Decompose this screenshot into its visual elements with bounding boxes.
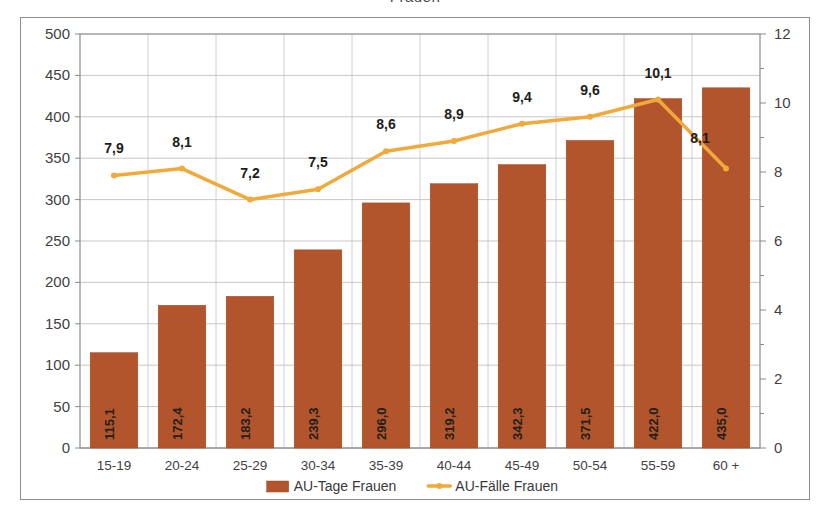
bar-value-label: 239,3 xyxy=(306,407,321,440)
bar-value-label: 435,0 xyxy=(714,407,729,440)
line-marker xyxy=(655,97,661,103)
axis-label-right: 0 xyxy=(774,439,782,456)
category-label: 35-39 xyxy=(369,458,404,473)
bar-value-label: 422,0 xyxy=(646,407,661,440)
line-marker xyxy=(383,148,389,154)
bar-value-label: 342,3 xyxy=(510,407,525,440)
legend-swatch-bar xyxy=(267,481,289,492)
line-marker xyxy=(451,138,457,144)
line-value-label: 7,2 xyxy=(240,165,260,181)
axis-label-right: 4 xyxy=(774,301,782,318)
axis-label-left: 150 xyxy=(45,315,70,332)
line-value-label: 9,6 xyxy=(580,82,600,98)
legend-label: AU-Tage Frauen xyxy=(294,478,397,494)
category-label: 15-19 xyxy=(97,458,132,473)
line-marker xyxy=(111,172,117,178)
legend-label: AU-Fälle Frauen xyxy=(455,478,558,494)
line-marker xyxy=(179,166,185,172)
category-label: 50-54 xyxy=(573,458,608,473)
category-label: 45-49 xyxy=(505,458,540,473)
bar-value-label: 183,2 xyxy=(238,407,253,440)
axis-label-left: 250 xyxy=(45,232,70,249)
axis-label-right: 8 xyxy=(774,163,782,180)
category-label: 20-24 xyxy=(165,458,200,473)
axis-label-right: 12 xyxy=(774,25,791,42)
line-value-label: 7,5 xyxy=(308,154,328,170)
chart-svg: 0501001502002503003504004505000246810121… xyxy=(0,0,830,516)
category-label: 25-29 xyxy=(233,458,268,473)
line-value-label: 7,9 xyxy=(104,140,124,156)
chart-container: Frauen 050100150200250300350400450500024… xyxy=(0,0,830,516)
bar-value-label: 172,4 xyxy=(170,407,185,440)
line-marker xyxy=(587,114,593,120)
category-label: 30-34 xyxy=(301,458,336,473)
bar-value-label: 371,5 xyxy=(578,407,593,440)
line-value-label: 8,1 xyxy=(690,130,710,146)
category-label: 40-44 xyxy=(437,458,472,473)
line-marker xyxy=(519,121,525,127)
axis-label-left: 100 xyxy=(45,356,70,373)
axis-label-left: 300 xyxy=(45,191,70,208)
bar xyxy=(634,99,682,448)
axis-label-left: 200 xyxy=(45,273,70,290)
line-marker xyxy=(315,186,321,192)
line-value-label: 8,6 xyxy=(376,116,396,132)
axis-label-right: 6 xyxy=(774,232,782,249)
line-marker xyxy=(247,197,253,203)
line-marker xyxy=(723,166,729,172)
axis-label-left: 0 xyxy=(62,439,70,456)
category-label: 55-59 xyxy=(641,458,676,473)
bar xyxy=(498,165,546,448)
axis-label-left: 350 xyxy=(45,149,70,166)
axis-label-right: 10 xyxy=(774,94,791,111)
line-value-label: 8,9 xyxy=(444,106,464,122)
bar xyxy=(566,140,614,448)
legend-swatch-marker xyxy=(436,483,442,489)
line-value-label: 9,4 xyxy=(512,89,532,105)
bar-value-label: 319,2 xyxy=(442,407,457,440)
legend-item[interactable]: AU-Fälle Frauen xyxy=(428,478,558,494)
axis-label-left: 450 xyxy=(45,66,70,83)
line-value-label: 10,1 xyxy=(644,65,671,81)
bar-value-label: 296,0 xyxy=(374,407,389,440)
axis-label-left: 500 xyxy=(45,25,70,42)
legend-item[interactable]: AU-Tage Frauen xyxy=(267,478,397,494)
axis-label-left: 50 xyxy=(53,398,70,415)
category-label: 60 + xyxy=(713,458,740,473)
line-value-label: 8,1 xyxy=(172,134,192,150)
axis-label-left: 400 xyxy=(45,108,70,125)
axis-label-right: 2 xyxy=(774,370,782,387)
bar-value-label: 115,1 xyxy=(102,408,117,440)
